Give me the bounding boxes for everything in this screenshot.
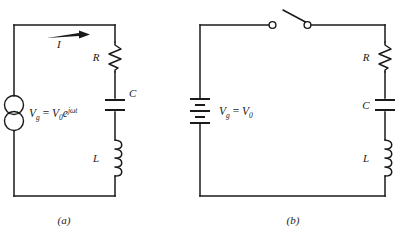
battery-icon bbox=[190, 99, 210, 123]
caption-a: (a) bbox=[58, 214, 71, 227]
capacitor-label-a: C bbox=[129, 87, 137, 99]
switch-contact-left[interactable] bbox=[269, 22, 276, 29]
circuit-diagram-canvas: I Vg = V0ejωt R C L (a) bbox=[0, 0, 401, 235]
battery-label: Vg = V0 bbox=[219, 105, 253, 120]
current-label: I bbox=[56, 38, 62, 50]
switch-blade[interactable] bbox=[283, 10, 306, 22]
current-arrow-icon bbox=[47, 31, 90, 39]
inductor-icon-a bbox=[115, 140, 122, 176]
capacitor-icon-b bbox=[375, 100, 395, 110]
resistor-icon-b bbox=[379, 42, 391, 72]
circuit-b: Vg = V0 R C L (b) bbox=[190, 10, 395, 227]
switch-icon[interactable] bbox=[269, 10, 311, 28]
resistor-icon-a bbox=[109, 42, 121, 72]
inductor-icon-b bbox=[385, 140, 392, 176]
circuit-a: I Vg = V0ejωt R C L (a) bbox=[5, 25, 138, 227]
caption-b: (b) bbox=[287, 214, 300, 227]
resistor-label-a: R bbox=[92, 51, 100, 63]
inductor-label-b: L bbox=[362, 152, 369, 164]
figure-root: I Vg = V0ejωt R C L (a) bbox=[0, 0, 401, 235]
capacitor-icon-a bbox=[105, 100, 125, 110]
resistor-label-b: R bbox=[362, 51, 370, 63]
ac-source-icon bbox=[5, 96, 24, 131]
ac-source-label: Vg = V0ejωt bbox=[29, 106, 78, 122]
inductor-label-a: L bbox=[92, 152, 99, 164]
capacitor-label-b: C bbox=[362, 99, 370, 111]
